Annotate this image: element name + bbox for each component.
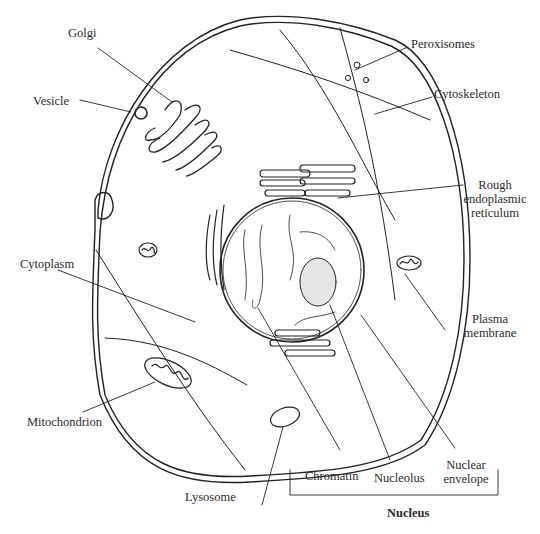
label-nucleus-group: Nucleus — [387, 506, 429, 520]
vesicle — [135, 107, 147, 119]
label-plasma-membrane: Plasma membrane — [450, 312, 530, 340]
nucleolus — [300, 258, 336, 306]
nuclear-envelope — [220, 198, 364, 342]
label-cytoskeleton: Cytoskeleton — [434, 87, 500, 101]
label-rough-er-line3: reticulum — [450, 206, 540, 220]
label-rough-er-line2: endoplasmic — [450, 192, 540, 206]
label-mitochondrion: Mitochondrion — [27, 415, 102, 429]
cell-diagram — [0, 0, 540, 534]
rough-er-top — [260, 165, 355, 196]
peroxisomes — [345, 62, 368, 83]
rough-er-side — [206, 205, 224, 290]
label-peroxisomes: Peroxisomes — [411, 37, 475, 51]
label-rough-er: Rough endoplasmic reticulum — [450, 178, 540, 220]
label-vesicle: Vesicle — [33, 94, 69, 108]
label-cytoplasm: Cytoplasm — [20, 257, 74, 271]
label-plasma-membrane-line2: membrane — [450, 326, 530, 340]
label-lysosome: Lysosome — [185, 490, 236, 504]
label-golgi: Golgi — [68, 26, 96, 40]
label-nuclear-envelope-line2: envelope — [436, 472, 496, 486]
nucleus — [220, 198, 364, 342]
leader-lines — [58, 47, 498, 505]
golgi-apparatus — [145, 101, 221, 176]
mitochondria — [139, 243, 421, 394]
label-nucleolus: Nucleolus — [374, 471, 425, 485]
plasma-membrane — [93, 16, 470, 482]
label-nuclear-envelope: Nuclear envelope — [436, 458, 496, 486]
lysosome — [268, 403, 302, 430]
label-nuclear-envelope-line1: Nuclear — [436, 458, 496, 472]
label-plasma-membrane-line1: Plasma — [450, 312, 530, 326]
label-chromatin: Chromatin — [305, 469, 358, 483]
label-rough-er-line1: Rough — [450, 178, 540, 192]
